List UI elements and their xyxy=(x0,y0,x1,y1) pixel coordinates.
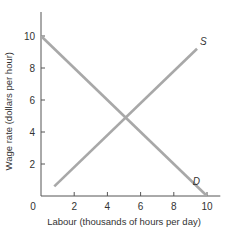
d-curve xyxy=(41,36,207,196)
x-tick-label: 10 xyxy=(201,201,213,212)
x-tick-label: 6 xyxy=(138,201,144,212)
y-tick-label: 10 xyxy=(24,31,36,42)
y-tick-label: 6 xyxy=(29,95,35,106)
chart: 2468100246810Labour (thousands of hours … xyxy=(0,0,230,227)
x-tick-label: 4 xyxy=(105,201,111,212)
supply-label: S xyxy=(200,36,207,47)
y-axis-label: Wage rate (dollars per hour) xyxy=(3,52,14,170)
x-tick-label: 2 xyxy=(71,201,77,212)
x-axis-label: Labour (thousands of hours per day) xyxy=(47,216,201,227)
y-tick-label: 4 xyxy=(29,127,35,138)
origin-label: 0 xyxy=(30,201,36,212)
demand-label: D xyxy=(193,176,200,187)
y-tick-label: 8 xyxy=(29,63,35,74)
x-tick-label: 8 xyxy=(171,201,177,212)
y-tick-label: 2 xyxy=(29,159,35,170)
